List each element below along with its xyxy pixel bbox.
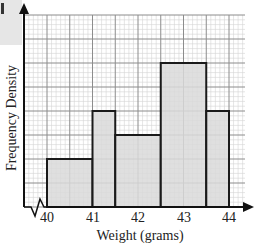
histogram-bar-3 xyxy=(161,63,207,207)
histogram-bar-0 xyxy=(47,159,93,207)
y-axis-arrow-icon xyxy=(19,3,29,14)
x-tick-44: 44 xyxy=(222,210,236,225)
y-axis-label: Frequency Density xyxy=(4,65,19,171)
x-tick-labels: 40 41 42 43 44 xyxy=(40,210,236,225)
x-axis-arrow-icon xyxy=(243,202,254,212)
x-tick-41: 41 xyxy=(86,210,100,225)
x-axis-label: Weight (grams) xyxy=(96,228,183,244)
histogram-bar-4 xyxy=(206,111,229,207)
x-tick-42: 42 xyxy=(131,210,145,225)
histogram-chart: 40 41 42 43 44 Weight (grams) Frequency … xyxy=(0,0,255,251)
x-tick-40: 40 xyxy=(40,210,54,225)
histogram-bar-1 xyxy=(93,111,116,207)
x-tick-43: 43 xyxy=(177,210,191,225)
histogram-bar-2 xyxy=(115,135,161,207)
